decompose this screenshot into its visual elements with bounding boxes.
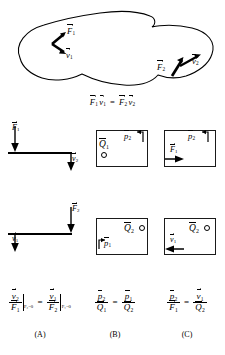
blob-reciprocity-equation: F1v1 = F2v2 — [0, 98, 225, 108]
label-F1-blob: F1 — [67, 27, 75, 37]
vector-pair-F1-v1 — [52, 32, 67, 54]
label-F1-row1c: F1 — [170, 146, 178, 155]
label-Q1-row1b: Q1 — [99, 140, 109, 151]
source-port-circle-Q2-row2c — [204, 225, 210, 231]
label-Q2-row2b: Q2 — [124, 224, 134, 235]
equation-c: p2 F1 = v1 Q2 — [152, 292, 222, 313]
label-v2-row1a: v2 — [72, 155, 78, 164]
equation-a-lhs-condition: F₂=0 — [24, 305, 33, 310]
equation-c-relation: = — [182, 298, 191, 307]
equation-b-relation: = — [110, 298, 119, 307]
equation-a-rhs-condition: F₁=0 — [62, 305, 71, 310]
panel-label-a: (A) — [20, 330, 60, 339]
reciprocity-theorem-figure: F1 v1 F2 v2 F1v1 = F2v2 F1 v2 — [0, 0, 225, 355]
panel-label-c: (C) — [167, 330, 207, 339]
pressure-port-p2-row1b — [136, 130, 149, 144]
panel-label-b: (B) — [95, 330, 135, 339]
pressure-port-p2-row1c — [201, 130, 214, 144]
label-Q2-row2c: Q2 — [189, 224, 199, 235]
label-F2-blob: F2 — [157, 63, 165, 73]
label-p2-row1c: p2 — [188, 132, 195, 142]
pressure-port-p1-row2b — [93, 236, 106, 250]
equation-a-relation: = — [35, 298, 44, 307]
equation-b: p2 Q1 = p1 Q2 — [82, 292, 148, 313]
equation-a: v2 F1 F₂=0 = v1 F2 F₁=0 — [0, 292, 80, 313]
source-port-circle-Q2-row2b — [139, 225, 145, 231]
label-p2-row1b: p2 — [124, 132, 131, 142]
label-F1-row1a: F1 — [12, 124, 20, 133]
label-v2-blob: v2 — [192, 57, 199, 67]
arrow-F1-right-row1c — [164, 155, 188, 165]
label-v1-row2c: v1 — [170, 236, 176, 245]
source-port-circle-Q1-row1b — [101, 152, 107, 158]
label-F2-row2a: F2 — [72, 205, 80, 214]
arrow-v1-left-row2c — [164, 245, 188, 255]
label-v1-row2a: v1 — [12, 235, 18, 244]
label-v1-blob: v1 — [66, 51, 73, 61]
